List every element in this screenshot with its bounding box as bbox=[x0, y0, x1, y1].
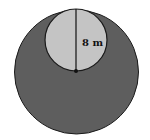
center-dot bbox=[74, 69, 78, 73]
circle-diagram: 8 m bbox=[0, 0, 150, 140]
diameter-label: 8 m bbox=[82, 37, 103, 48]
